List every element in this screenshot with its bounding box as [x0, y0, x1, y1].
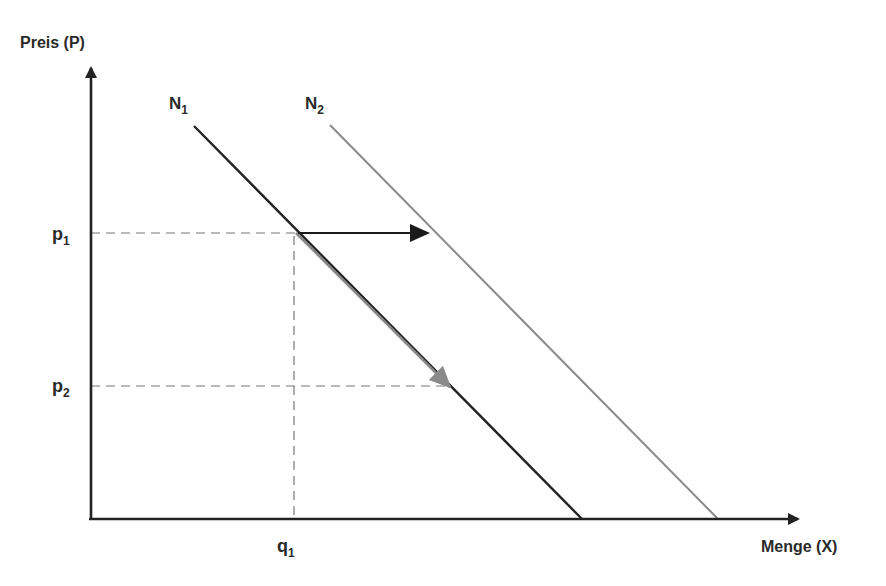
y-axis-title: Preis (P) [20, 34, 85, 51]
q1-label: q1 [277, 536, 295, 560]
demand-shift-chart: Preis (P) Menge (X) N1 N2 p1 p2 q1 [0, 0, 886, 586]
x-axis-title: Menge (X) [761, 538, 837, 555]
n1-label: N1 [169, 94, 188, 117]
n2-label: N2 [305, 94, 324, 117]
p2-label: p2 [52, 376, 70, 400]
movement-along-curve-arrow [296, 233, 450, 387]
p1-label: p1 [52, 224, 70, 248]
